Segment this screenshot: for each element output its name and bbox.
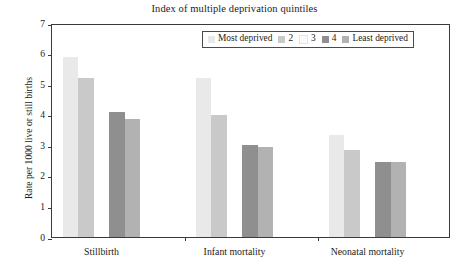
legend-item[interactable]: 3 [299, 34, 316, 43]
y-tick-mark [48, 86, 52, 87]
x-tick-mark [318, 237, 319, 241]
y-tick-label: 7 [40, 18, 45, 29]
bar [196, 78, 211, 237]
legend-swatch-icon [342, 36, 349, 43]
y-tick-mark [48, 147, 52, 148]
bar [78, 78, 93, 237]
y-tick-mark [48, 239, 52, 240]
y-tick-mark [48, 177, 52, 178]
bar [211, 115, 226, 237]
x-tick-mark [185, 237, 186, 241]
legend-swatch-icon [208, 36, 215, 43]
y-tick-label: 3 [40, 140, 45, 151]
x-axis-group-label: Stillbirth [84, 246, 119, 257]
legend-item[interactable]: Most deprived [208, 34, 272, 43]
legend-swatch-icon [278, 36, 285, 43]
bar [125, 119, 140, 237]
legend-item[interactable]: Least deprived [342, 34, 407, 43]
bar [109, 112, 124, 237]
y-tick-label: 0 [40, 232, 45, 243]
legend-swatch-icon [299, 35, 308, 44]
legend-item[interactable]: 2 [278, 34, 293, 43]
y-tick-label: 2 [40, 170, 45, 181]
bar [242, 145, 257, 237]
y-tick-label: 1 [40, 201, 45, 212]
bar [391, 162, 406, 237]
y-tick-mark [48, 116, 52, 117]
y-tick-mark [48, 55, 52, 56]
bar [329, 135, 344, 237]
y-axis-label: Rate per 1000 live or still births [23, 38, 34, 238]
y-tick-label: 5 [40, 79, 45, 90]
y-tick-label: 6 [40, 48, 45, 59]
y-tick-mark [48, 208, 52, 209]
bar-chart: Index of multiple deprivation quintiles … [0, 0, 469, 276]
bar [258, 147, 273, 237]
y-tick-label: 4 [40, 109, 45, 120]
bars-layer [52, 25, 449, 237]
legend-label: Most deprived [218, 34, 272, 43]
x-axis-group-label: Neonatal mortality [331, 246, 405, 257]
legend-swatch-icon [322, 36, 329, 43]
x-axis-group-label: Infant mortality [204, 246, 266, 257]
y-tick-mark [48, 25, 52, 26]
legend-label: 3 [311, 34, 316, 43]
legend-item[interactable]: 4 [322, 34, 337, 43]
legend-label: Least deprived [352, 34, 407, 43]
chart-title: Index of multiple deprivation quintiles [0, 3, 469, 14]
legend: Most deprived234Least deprived [202, 31, 414, 48]
legend-label: 2 [288, 34, 293, 43]
legend-label: 4 [332, 34, 337, 43]
bar [63, 57, 78, 237]
bar [375, 162, 390, 237]
bar [344, 150, 359, 237]
plot-area: 01234567 StillbirthInfant mortalityNeona… [51, 24, 450, 238]
